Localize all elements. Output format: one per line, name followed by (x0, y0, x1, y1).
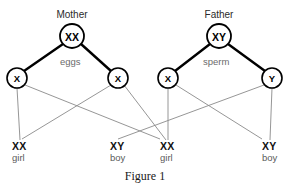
offspring-4-sex: boy (262, 152, 277, 163)
offspring-4: XY boy (262, 141, 277, 163)
edge-mother-to-x2 (81, 44, 111, 71)
edge-father-to-y (228, 44, 265, 71)
gamete-father-x-text: X (165, 73, 172, 84)
gamete-father-y-text: Y (269, 73, 276, 84)
figure-caption: Figure 1 (0, 169, 290, 184)
offspring-4-genotype: XY (262, 141, 277, 152)
figure-container: XX XY X X X Y Mother Father eggs sperm X… (0, 0, 290, 188)
gamete-mother-x1-text: X (14, 73, 21, 84)
edge-mother-to-x1 (24, 44, 63, 71)
mother-genotype-text: XX (65, 31, 79, 43)
edge-fy-to-offspring4 (270, 88, 272, 140)
parent-node-group: XX XY (60, 24, 231, 48)
father-genotype-text: XY (212, 31, 226, 43)
offspring-3: XX girl (160, 141, 174, 163)
edge-fx-to-offspring4 (176, 85, 262, 139)
offspring-3-genotype: XX (160, 141, 174, 152)
edge-fy-to-offspring2 (118, 85, 264, 139)
sperm-label: sperm (203, 56, 229, 67)
offspring-1: XX girl (12, 141, 26, 163)
edge-x2-to-offspring1 (22, 85, 111, 139)
offspring-3-sex: girl (160, 152, 174, 163)
father-label: Father (147, 9, 290, 20)
gamete-mother-x2-text: X (115, 73, 122, 84)
offspring-1-genotype: XX (12, 141, 26, 152)
eggs-label: eggs (60, 56, 81, 67)
offspring-2-sex: boy (110, 152, 125, 163)
offspring-2: XY boy (110, 141, 125, 163)
fertilization-edge-group (17, 85, 272, 140)
gamete-node-group: X X X Y (7, 68, 282, 88)
edge-x1-to-offspring1 (17, 88, 20, 140)
offspring-2-genotype: XY (110, 141, 125, 152)
edge-x2-to-offspring3 (124, 85, 166, 140)
offspring-1-sex: girl (12, 152, 26, 163)
mother-label: Mother (0, 9, 144, 20)
genetics-inheritance-diagram: XX XY X X X Y (0, 0, 290, 188)
